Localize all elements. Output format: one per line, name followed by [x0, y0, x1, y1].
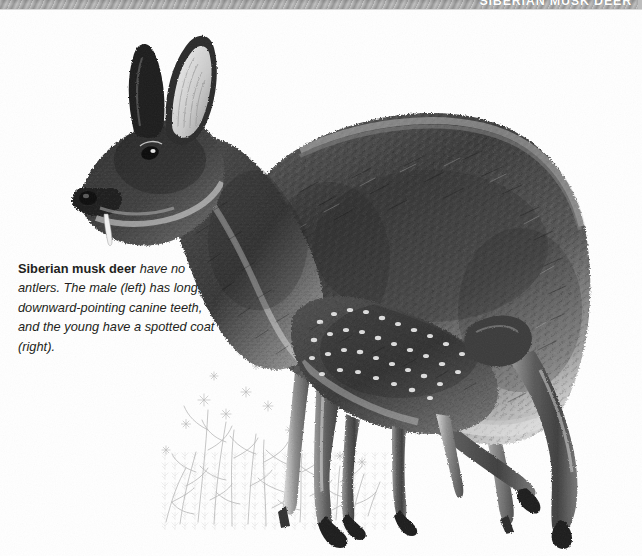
reference-page: SIBERIAN MUSK DEER: [0, 0, 642, 556]
figure-caption: Siberian musk deer have no antlers. The …: [18, 259, 218, 356]
header-banner: SIBERIAN MUSK DEER: [0, 0, 642, 9]
caption-lead-term: Siberian musk deer: [18, 261, 136, 276]
header-right-edge-strip: [638, 0, 642, 9]
page-title: SIBERIAN MUSK DEER: [479, 0, 632, 7]
